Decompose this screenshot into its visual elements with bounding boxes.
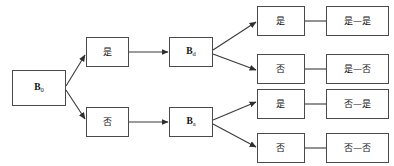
node-outcome-yes-no-label: 是—否 xyxy=(344,65,371,74)
edge-bd-to-yes xyxy=(213,22,256,50)
node-l3-yes-upper[interactable]: 是 xyxy=(257,6,305,36)
node-root-b0-label: B0 xyxy=(34,83,44,93)
node-l1-yes-label: 是 xyxy=(103,48,112,57)
node-outcome-yes-yes[interactable]: 是—是 xyxy=(326,6,389,36)
node-l3-no-lower-label: 否 xyxy=(276,144,285,153)
node-outcome-no-no-label: 否—否 xyxy=(344,144,371,153)
node-outcome-no-no[interactable]: 否—否 xyxy=(326,133,389,163)
node-l3-no-upper-label: 否 xyxy=(276,65,285,74)
node-l1-no-label: 否 xyxy=(103,118,112,127)
node-root-b0-subscript: 0 xyxy=(41,86,44,93)
node-l1-yes[interactable]: 是 xyxy=(86,37,129,67)
node-l3-yes-lower[interactable]: 是 xyxy=(257,89,305,119)
node-l2-ba[interactable]: Ba xyxy=(169,107,213,137)
edge-ba-to-yes xyxy=(213,102,256,120)
edge-root-to-no xyxy=(66,90,85,119)
edge-bd-to-no xyxy=(213,54,256,70)
node-l2-bd-label: Bd xyxy=(186,47,196,57)
node-l3-no-upper[interactable]: 否 xyxy=(257,54,305,84)
node-l1-no[interactable]: 否 xyxy=(86,107,129,137)
decision-tree-diagram: B0 是 否 Bd Ba 是 否 是 否 是—是 是—否 否—是 否— xyxy=(0,0,394,166)
node-l2-bd-subscript: d xyxy=(193,50,196,57)
node-l3-yes-lower-label: 是 xyxy=(276,100,285,109)
node-outcome-no-yes-label: 否—是 xyxy=(344,100,371,109)
edge-root-to-yes xyxy=(66,55,85,86)
node-l3-yes-upper-label: 是 xyxy=(276,17,285,26)
node-l2-bd[interactable]: Bd xyxy=(169,37,213,67)
node-root-b0[interactable]: B0 xyxy=(12,70,66,106)
node-outcome-no-yes[interactable]: 否—是 xyxy=(326,89,389,119)
node-l3-no-lower[interactable]: 否 xyxy=(257,133,305,163)
node-outcome-yes-yes-label: 是—是 xyxy=(344,17,371,26)
node-outcome-yes-no[interactable]: 是—否 xyxy=(326,54,389,84)
node-l2-ba-subscript: a xyxy=(193,120,196,127)
edge-ba-to-no xyxy=(213,124,256,147)
node-l2-ba-label: Ba xyxy=(186,117,195,127)
